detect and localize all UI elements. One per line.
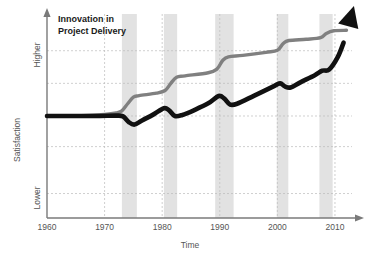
x-tick-1980: 1980	[153, 222, 172, 232]
tick-labels-group: 196019701980199020002010	[38, 222, 345, 232]
x-tick-1990: 1990	[210, 222, 229, 232]
chart-title: Innovation in Project Delivery	[58, 14, 126, 36]
chart-figure: 196019701980199020002010 Innovation in P…	[0, 0, 373, 265]
y-axis-arrowhead	[43, 8, 50, 17]
x-tick-2000: 2000	[268, 222, 287, 232]
chart-title-line1: Innovation in	[58, 14, 114, 24]
innovation-project-delivery-chart: 196019701980199020002010 Innovation in P…	[0, 0, 373, 265]
chart-title-line2: Project Delivery	[58, 26, 126, 36]
shaded-band-recession-2008	[319, 14, 332, 218]
x-tick-2010: 2010	[326, 222, 345, 232]
x-axis-label: Time	[181, 240, 200, 250]
y-axis-label: Satisfaction	[12, 118, 22, 162]
series-line-1	[47, 30, 346, 116]
x-tick-1960: 1960	[38, 222, 57, 232]
x-tick-1970: 1970	[95, 222, 114, 232]
series-arrowhead	[338, 6, 358, 29]
x-axis-arrowhead	[355, 214, 364, 221]
y-tick-higher: Higher	[32, 42, 42, 67]
y-tick-lower: Lower	[32, 186, 42, 209]
